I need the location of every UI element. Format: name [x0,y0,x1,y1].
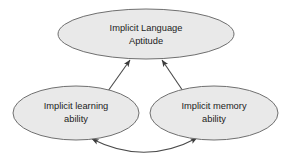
node-implicit-learning-ability[interactable]: Implicit learning ability [13,86,139,140]
node-label-implicit-learning-ability-line1: Implicit learning [44,101,109,111]
edge-memory-to-aptitude [162,60,183,91]
node-label-implicit-language-aptitude-line2: Aptitude [129,36,163,46]
node-label-implicit-memory-ability-line2: ability [202,114,226,124]
node-shape-implicit-learning-ability [13,86,139,140]
edge-learning-memory-bidirectional [92,138,197,152]
node-label-implicit-learning-ability-line2: ability [64,114,88,124]
node-shape-implicit-language-aptitude [58,9,234,59]
diagram-canvas: Implicit Language Aptitude Implicit lear… [0,0,289,168]
edge-learning-to-aptitude [108,60,130,91]
node-implicit-memory-ability[interactable]: Implicit memory ability [150,86,278,140]
node-label-implicit-memory-ability-line1: Implicit memory [181,101,246,111]
concept-map-svg: Implicit Language Aptitude Implicit lear… [0,0,289,168]
node-label-implicit-language-aptitude-line1: Implicit Language [110,23,183,33]
node-shape-implicit-memory-ability [150,86,278,140]
node-implicit-language-aptitude[interactable]: Implicit Language Aptitude [58,9,234,59]
